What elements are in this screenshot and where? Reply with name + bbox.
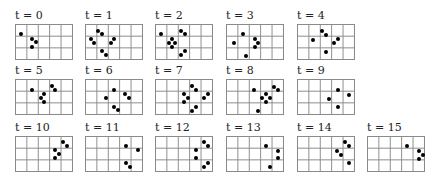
particle-dot bbox=[128, 165, 132, 169]
particle-dot bbox=[124, 144, 128, 148]
particle-dot bbox=[405, 144, 409, 148]
lattice-grid bbox=[85, 24, 143, 60]
grid-panel: t = 1 bbox=[85, 10, 145, 60]
particle-dot bbox=[347, 144, 351, 148]
time-step-label: t = 1 bbox=[85, 10, 113, 22]
particle-dot bbox=[104, 53, 108, 57]
particle-dot bbox=[332, 41, 336, 45]
particle-dot bbox=[194, 156, 198, 160]
particle-dot bbox=[327, 97, 331, 101]
particle-dot bbox=[183, 49, 187, 53]
lattice-grid bbox=[367, 136, 425, 172]
particle-dot bbox=[194, 148, 198, 152]
lattice-grid bbox=[85, 79, 143, 115]
grid-panel: t = 6 bbox=[85, 65, 145, 115]
particle-dot bbox=[112, 37, 116, 41]
grid-panel: t = 9 bbox=[297, 65, 357, 115]
particle-dot bbox=[256, 109, 260, 113]
particle-dot bbox=[116, 108, 120, 112]
particle-dot bbox=[417, 149, 421, 153]
time-step-label: t = 4 bbox=[297, 10, 325, 22]
lattice-grid bbox=[15, 24, 73, 60]
particle-dot bbox=[347, 161, 351, 165]
particle-dot bbox=[112, 88, 116, 92]
particle-dot bbox=[124, 161, 128, 165]
particle-dot bbox=[260, 96, 264, 100]
particle-dot bbox=[202, 140, 206, 144]
particle-dot bbox=[53, 148, 57, 152]
particle-dot bbox=[206, 144, 210, 148]
grid-panel: t = 10 bbox=[15, 122, 75, 172]
particle-dot bbox=[202, 165, 206, 169]
particle-dot bbox=[256, 41, 260, 45]
particle-dot bbox=[336, 88, 340, 92]
grid-panel: t = 11 bbox=[85, 122, 145, 172]
lattice-grid bbox=[155, 79, 213, 115]
particle-dot bbox=[100, 32, 104, 36]
particle-dot bbox=[311, 38, 315, 42]
time-step-label: t = 2 bbox=[155, 10, 183, 22]
time-step-label: t = 14 bbox=[297, 122, 332, 134]
lattice-grid bbox=[15, 79, 73, 115]
particle-dot bbox=[53, 88, 57, 92]
particle-dot bbox=[42, 100, 46, 104]
grid-panel: t = 12 bbox=[155, 122, 215, 172]
particle-dot bbox=[206, 92, 210, 96]
lattice-grid bbox=[155, 24, 213, 60]
grid-panel: t = 5 bbox=[15, 65, 75, 115]
particle-dot bbox=[232, 41, 236, 45]
particle-dot bbox=[104, 96, 108, 100]
time-step-label: t = 3 bbox=[226, 10, 254, 22]
particle-dot bbox=[182, 100, 186, 104]
lattice-grid bbox=[297, 24, 355, 60]
lattice-grid bbox=[155, 136, 213, 172]
particle-dot bbox=[264, 100, 268, 104]
lattice-grid bbox=[226, 24, 284, 60]
time-step-label: t = 0 bbox=[15, 10, 43, 22]
particle-dot bbox=[190, 84, 194, 88]
particle-dot bbox=[57, 152, 61, 156]
particle-dot bbox=[252, 88, 256, 92]
lattice-grid bbox=[226, 136, 284, 172]
particle-dot bbox=[42, 92, 46, 96]
lattice-grid bbox=[297, 79, 355, 115]
particle-dot bbox=[65, 144, 69, 148]
grid-panel: t = 7 bbox=[155, 65, 215, 115]
particle-dot bbox=[123, 92, 127, 96]
particle-dot bbox=[336, 37, 340, 41]
particle-dot bbox=[347, 93, 351, 97]
lattice-grid bbox=[15, 136, 73, 172]
time-step-label: t = 10 bbox=[15, 122, 50, 134]
lattice-grid bbox=[85, 136, 143, 172]
particle-dot bbox=[244, 54, 248, 58]
time-step-label: t = 7 bbox=[155, 65, 183, 77]
particle-dot bbox=[173, 41, 177, 45]
particle-dot bbox=[324, 50, 328, 54]
particle-dot bbox=[109, 41, 113, 45]
lattice-grid bbox=[297, 136, 355, 172]
grid-panel: t = 13 bbox=[226, 122, 286, 172]
particle-dot bbox=[183, 32, 187, 36]
particle-dot bbox=[194, 88, 198, 92]
particle-dot bbox=[190, 109, 194, 113]
lattice-grid bbox=[226, 79, 284, 115]
particle-dot bbox=[53, 156, 57, 160]
particle-dot bbox=[206, 161, 210, 165]
particle-dot bbox=[339, 153, 343, 157]
particle-dot bbox=[417, 157, 421, 161]
grid-panel: t = 0 bbox=[15, 10, 75, 60]
particle-dot bbox=[100, 49, 104, 53]
particle-dot bbox=[92, 41, 96, 45]
particle-dot bbox=[127, 96, 131, 100]
particle-dot bbox=[30, 88, 34, 92]
time-step-label: t = 5 bbox=[15, 65, 43, 77]
time-step-label: t = 6 bbox=[85, 65, 113, 77]
particle-dot bbox=[324, 33, 328, 37]
particle-dot bbox=[170, 45, 174, 49]
particle-dot bbox=[421, 153, 425, 157]
particle-dot bbox=[276, 156, 280, 160]
particle-dot bbox=[268, 165, 272, 169]
particle-dot bbox=[241, 32, 245, 36]
particle-dot bbox=[61, 140, 65, 144]
time-step-label: t = 15 bbox=[367, 122, 402, 134]
